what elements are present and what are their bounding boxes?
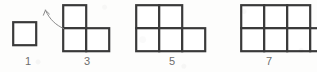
figure-label-3: 3 — [77, 55, 97, 67]
curved-pointer-arrow-icon — [40, 3, 70, 33]
square-grid-7 — [240, 4, 317, 53]
figure-label-7: 7 — [259, 55, 279, 67]
square-grid-1 — [12, 21, 38, 47]
figure-label-5: 5 — [162, 55, 182, 67]
figure-term-5 — [135, 4, 207, 53]
pattern-figure: 1 3 5 — [0, 0, 317, 72]
square-grid-5 — [135, 4, 207, 53]
figure-term-1 — [12, 21, 38, 47]
figure-term-7 — [240, 4, 317, 53]
figure-label-1: 1 — [18, 55, 38, 67]
